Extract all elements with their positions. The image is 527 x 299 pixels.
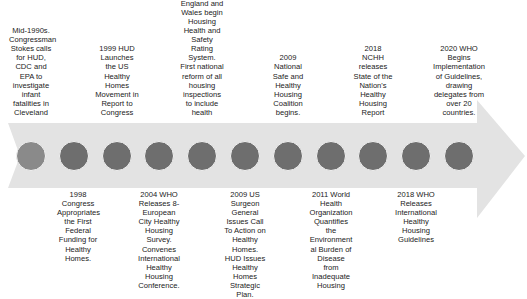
event-label-mid-1990s: Mid-1990s. Congressman Stokes calls for … bbox=[9, 26, 53, 117]
timeline-dot bbox=[273, 141, 303, 171]
timeline-dot bbox=[59, 141, 89, 171]
event-label-2018-who: 2018 WHO Releases International Healthy … bbox=[394, 190, 438, 245]
timeline-dot bbox=[401, 141, 431, 171]
event-label-2011-who: 2011 World Health Organization Quantifie… bbox=[309, 190, 353, 290]
timeline-dot bbox=[187, 141, 217, 171]
timeline-dot bbox=[444, 141, 474, 171]
event-label-1999-hud: 1999 HUD Launches the US Healthy Homes M… bbox=[95, 44, 139, 117]
timeline-dot bbox=[144, 141, 174, 171]
timeline-dot bbox=[230, 141, 260, 171]
timeline-dot bbox=[16, 141, 46, 171]
timeline-dot bbox=[316, 141, 346, 171]
event-label-1998-congress: 1998 Congress Appropriates the First Fed… bbox=[57, 190, 99, 263]
event-label-2009-coalition: 2009 National Safe and Healthy Housing C… bbox=[266, 53, 310, 117]
event-label-2004-who: 2004 WHO Releases 8-European City Health… bbox=[137, 190, 181, 290]
event-label-2004-england-wales: 2004 England and Wales begin Housing Hea… bbox=[180, 0, 224, 117]
event-label-2020-who: 2020 WHO Begins Implementation of Guidel… bbox=[433, 44, 485, 117]
timeline-dot bbox=[358, 141, 388, 171]
timeline-dot bbox=[102, 141, 132, 171]
event-label-2018-nchh: 2018 NCHH releases State of the Nation's… bbox=[353, 44, 393, 117]
event-label-2009-surgeon-general: 2009 US Surgeon General Issues Call To A… bbox=[224, 190, 266, 299]
